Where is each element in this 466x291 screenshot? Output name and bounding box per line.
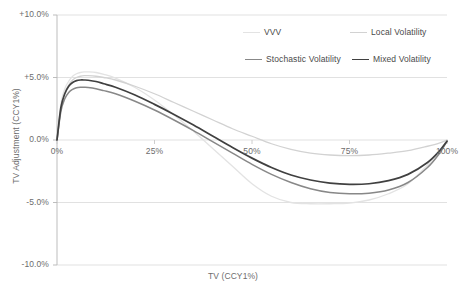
- legend-item-mixed-volatility[interactable]: Mixed Volatility: [352, 54, 431, 64]
- legend-item-vvv[interactable]: VVV: [243, 27, 281, 37]
- series-line-mixed-volatility: [57, 80, 447, 184]
- x-axis-tick-label: 100%: [417, 146, 466, 156]
- y-axis-tick-label: +5.0%: [0, 72, 49, 82]
- legend-item-stochastic-volatility[interactable]: Stochastic Volatility: [245, 54, 341, 64]
- y-axis-title: TV Adjustment (CCY1%): [11, 76, 21, 196]
- data-series: [57, 72, 447, 204]
- x-axis-tick-label: 0%: [27, 146, 87, 156]
- x-axis-tick-label: 75%: [320, 146, 380, 156]
- y-axis-tick-label: -10.0%: [0, 259, 49, 269]
- legend-item-local-volatility[interactable]: Local Volatility: [350, 27, 426, 37]
- legend-label: Mixed Volatility: [373, 54, 431, 64]
- x-axis-tick-label: 25%: [125, 146, 185, 156]
- chart-container: +10.0%+5.0%0.0%-5.0%-10.0% 0%25%50%75%10…: [0, 0, 466, 291]
- y-axis-tick-label: +10.0%: [0, 9, 49, 19]
- legend-label: VVV: [264, 27, 281, 37]
- y-axis-tick-label: -5.0%: [0, 197, 49, 207]
- series-line-vvv: [57, 72, 447, 204]
- y-axis-tick-label: 0.0%: [0, 134, 49, 144]
- legend-swatch-line-icon: [352, 59, 369, 60]
- x-axis-title: TV (CCY1%): [0, 271, 466, 281]
- legend-label: Local Volatility: [371, 27, 426, 37]
- legend-label: Stochastic Volatility: [266, 54, 341, 64]
- legend-swatch-line-icon: [350, 32, 367, 33]
- legend-swatch-line-icon: [245, 59, 262, 60]
- legend-swatch-line-icon: [243, 32, 260, 33]
- x-axis-tick-label: 50%: [222, 146, 282, 156]
